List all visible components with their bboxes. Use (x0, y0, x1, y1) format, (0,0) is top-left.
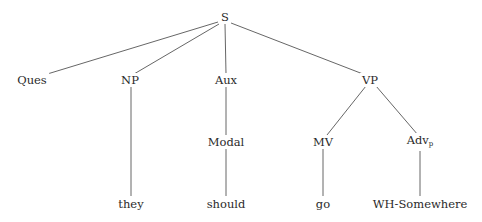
edge-vp-advp (376, 86, 418, 135)
node-modal: Modal (206, 135, 247, 149)
node-mv: MV (311, 135, 335, 149)
leaf-wh-somewhere: WH-Somewhere (371, 197, 470, 211)
edge-s-ques (44, 22, 218, 75)
leaf-should: should (205, 197, 248, 211)
node-aux: Aux (213, 73, 239, 87)
leaf-they: they (116, 197, 145, 211)
edge-s-aux (225, 24, 226, 74)
leaf-go: go (314, 197, 332, 211)
node-advp-subscript: p (429, 140, 433, 148)
syntax-tree: S Ques NP Aux VP Modal MV Advp they shou… (0, 0, 482, 222)
node-advp: Advp (405, 133, 436, 151)
edge-vp-mv (327, 86, 366, 135)
edge-s-vp (231, 23, 363, 74)
node-np: NP (119, 73, 141, 87)
node-vp: VP (360, 73, 380, 87)
edge-s-np (134, 24, 219, 74)
node-ques: Ques (15, 73, 49, 87)
node-s: S (219, 10, 231, 24)
node-advp-label: Adv (407, 133, 429, 147)
tree-edges (0, 0, 482, 222)
